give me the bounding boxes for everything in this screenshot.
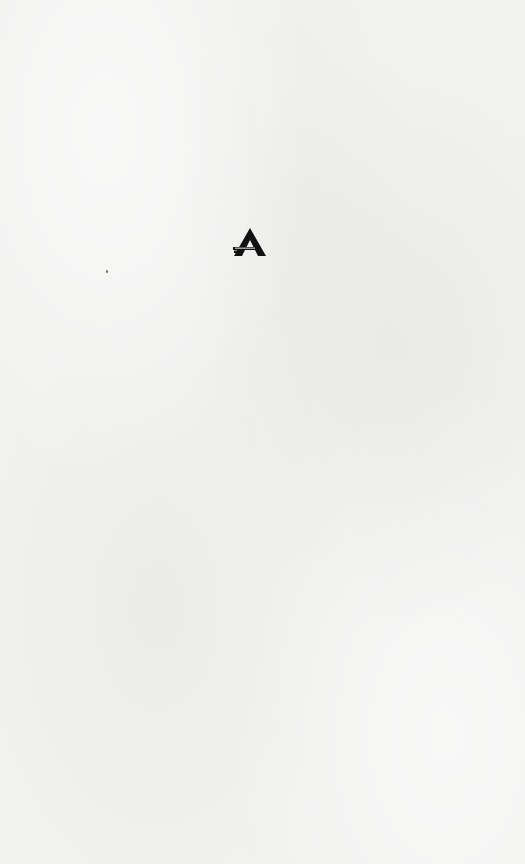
- triangle-a-logo-icon: [232, 226, 268, 258]
- logo: [232, 226, 268, 258]
- dust-speck: [106, 270, 108, 273]
- blank-page: [0, 0, 525, 864]
